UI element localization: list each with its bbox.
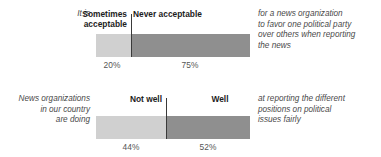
- chart2-category-label-left: Not well: [76, 94, 162, 104]
- chart2-lead-in-line-2: in our country: [0, 105, 90, 116]
- chart1-value-label-right: 75%: [170, 60, 210, 70]
- chart1-category-label-left: Sometimes acceptable: [47, 9, 127, 30]
- chart2-lead-in-line-3: are doing: [0, 115, 90, 126]
- chart1-trailing-line-3: over others when reporting: [258, 30, 381, 41]
- chart1-trailing-line-1: for a news organization: [258, 9, 381, 20]
- chart2-segment-divider-rule: [166, 98, 167, 139]
- chart1-segment-divider-rule: [131, 14, 132, 57]
- chart2-trailing-text: at reporting the different positions on …: [258, 94, 381, 126]
- chart2-segment-not-well: [96, 116, 166, 139]
- chart2-trailing-line-1: at reporting the different: [258, 94, 381, 105]
- chart1-value-label-left: 20%: [92, 60, 132, 70]
- chart1-trailing-text: for a news organization to favor one pol…: [258, 9, 381, 51]
- chart1-segment-never-acceptable: [131, 34, 250, 57]
- chart2-segment-well: [166, 116, 250, 139]
- chart2-trailing-line-3: issues fairly: [258, 115, 381, 126]
- chart2-value-label-left: 44%: [111, 142, 151, 152]
- chart2-category-label-right: Well: [190, 94, 250, 104]
- chart1-segment-sometimes-acceptable: [96, 34, 131, 57]
- chart2-trailing-line-2: positions on political: [258, 105, 381, 116]
- chart2-value-label-right: 52%: [188, 142, 228, 152]
- chart1-category-label-right: Never acceptable: [133, 9, 243, 19]
- chart1-bar: [96, 34, 250, 57]
- chart1-trailing-line-2: to favor one political party: [258, 20, 381, 31]
- chart2-bar: [96, 116, 250, 139]
- chart1-trailing-line-4: the news: [258, 41, 381, 52]
